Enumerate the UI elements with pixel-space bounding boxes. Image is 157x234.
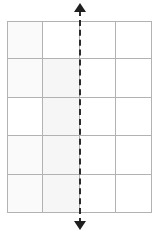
grid-cell [116,98,152,136]
grid-cell [80,98,116,136]
grid-cell [43,21,79,59]
grid-cell [116,59,152,97]
symmetry-diagram [0,0,157,234]
grid-cell [7,136,43,174]
grid-cell [7,21,43,59]
grid-cell [80,59,116,97]
grid-cell [43,175,79,213]
arrow-up-icon [74,3,86,12]
grid-cell [7,98,43,136]
grid-cell [116,21,152,59]
grid-cell [80,136,116,174]
grid-cell [43,59,79,97]
grid-cell [7,175,43,213]
grid-cell [116,136,152,174]
grid-cell [80,175,116,213]
grid-cell [80,21,116,59]
grid-cell [43,136,79,174]
grid-cell [7,59,43,97]
symmetry-axis-line [79,10,81,224]
grid-cell [43,98,79,136]
arrow-down-icon [74,221,86,230]
grid-cell [116,175,152,213]
